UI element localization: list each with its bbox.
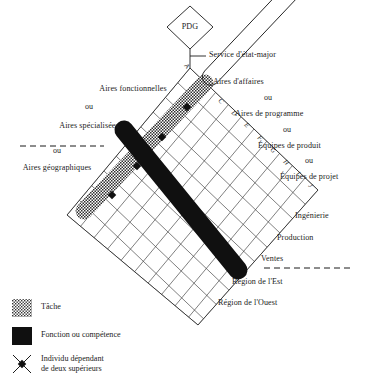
left-axis-or-1: ou	[85, 103, 93, 111]
legend-swatch-task	[12, 299, 32, 317]
letter-e: E	[243, 120, 252, 128]
right-axis-line-3: Équipes de produit	[258, 142, 321, 150]
right-axis-or-3: ou	[305, 157, 313, 165]
legend-swatch-individual	[13, 355, 31, 373]
lower-right-item-5: Région de l'Ouest	[218, 299, 277, 307]
left-axis-or-2: ou	[53, 147, 61, 155]
right-axis-or-2: ou	[283, 126, 291, 134]
right-axis-line-1: Aires d'affaires	[213, 78, 264, 86]
figure-canvas: A C D E F G H I J PDG Service d'état-maj…	[0, 0, 367, 382]
lower-right-item-4: Région de l'Est	[232, 278, 283, 286]
right-axis-line-4: Équipes de projet	[280, 173, 338, 181]
lower-right-item-1: Ingénierie	[295, 212, 329, 220]
legend-swatches	[12, 299, 32, 373]
right-axis-or-1: ou	[264, 94, 272, 102]
task-bar-outline	[199, 0, 332, 89]
legend-label-individual: Individu dépendant de deux supérieurs	[41, 354, 104, 373]
staff-connector-label: Service d'état-major	[209, 51, 276, 59]
left-axis-line-2: Aires spécialisées	[59, 122, 119, 130]
left-axis-line-3: Aires géographiques	[23, 164, 92, 172]
lower-right-item-2: Production	[277, 234, 314, 242]
legend-label-task: Tâche	[41, 302, 61, 312]
legend-label-function: Fonction ou compétence	[41, 330, 121, 340]
letter-h: H	[282, 157, 292, 167]
matrix-organization-diagram: A C D E F G H I J	[0, 0, 367, 382]
lower-right-item-3: Ventes	[261, 255, 283, 263]
function-bar	[124, 130, 238, 270]
right-axis-line-2: Aires de programme	[235, 110, 303, 118]
pdg-label: PDG	[182, 23, 199, 31]
legend-swatch-function	[12, 327, 32, 345]
left-axis-line-1: Aires fonctionnelles	[99, 85, 166, 93]
